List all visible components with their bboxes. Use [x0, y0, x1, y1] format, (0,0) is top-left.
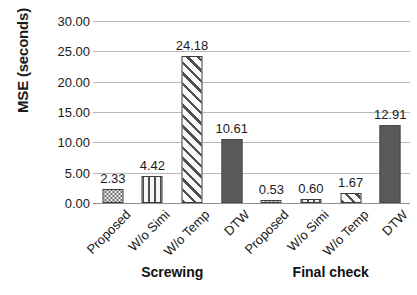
x-axis-category-label: DTW	[221, 207, 253, 239]
bar[interactable]	[221, 139, 242, 203]
bar-value-label: 10.61	[215, 121, 248, 136]
bar-group-slot: 24.18	[172, 21, 212, 203]
plot-area: 2.334.4224.1810.610.530.601.6712.91	[93, 21, 410, 203]
x-axis-group-label: Screwing	[141, 264, 203, 280]
bar[interactable]	[261, 200, 282, 203]
bar-value-label: 12.91	[374, 107, 407, 122]
bar[interactable]	[380, 125, 401, 203]
bar-group-slot: 2.33	[93, 21, 133, 203]
bar-series: 2.334.4224.1810.610.530.601.6712.91	[93, 21, 410, 203]
bar-group-slot: 0.53	[252, 21, 292, 203]
y-axis-tick-label: 0.00	[34, 196, 90, 211]
bar-value-label: 0.60	[298, 181, 323, 196]
bar-group-slot: 12.91	[370, 21, 410, 203]
bar-value-label: 0.53	[259, 182, 284, 197]
bar[interactable]	[340, 193, 361, 203]
bar-chart: MSE (seconds) 0.005.0010.0015.0020.0025.…	[0, 0, 417, 295]
bar-group-slot: 10.61	[212, 21, 252, 203]
bar-value-label: 1.67	[338, 175, 363, 190]
bar-value-label: 2.33	[100, 171, 125, 186]
y-axis-tick-label: 5.00	[34, 165, 90, 180]
x-axis-group-label: Final check	[293, 264, 369, 280]
x-axis-category-labels: ProposedW/o SimiW/o TempDTWProposedW/o S…	[93, 205, 410, 265]
y-axis-tick-label: 20.00	[34, 74, 90, 89]
y-axis-tick-labels: 0.005.0010.0015.0020.0025.0030.00	[34, 13, 90, 209]
bar-group-slot: 4.42	[133, 21, 173, 203]
y-axis-title: MSE (seconds)	[14, 0, 31, 141]
x-axis-category-label: DTW	[379, 207, 411, 239]
bar[interactable]	[142, 176, 163, 203]
bar[interactable]	[182, 56, 203, 203]
bar[interactable]	[102, 189, 123, 203]
bar[interactable]	[300, 199, 321, 203]
x-axis-category-label: Proposed	[83, 207, 133, 257]
axis-baseline	[93, 203, 410, 204]
y-axis-tick-label: 10.00	[34, 135, 90, 150]
bar-group-slot: 1.67	[331, 21, 371, 203]
y-axis-tick-label: 30.00	[34, 14, 90, 29]
bar-value-label: 24.18	[176, 38, 209, 53]
y-axis-tick-label: 25.00	[34, 44, 90, 59]
bar-value-label: 4.42	[140, 158, 165, 173]
bar-group-slot: 0.60	[291, 21, 331, 203]
y-axis-tick-label: 15.00	[34, 105, 90, 120]
x-axis-group-labels: ScrewingFinal check	[93, 264, 410, 288]
